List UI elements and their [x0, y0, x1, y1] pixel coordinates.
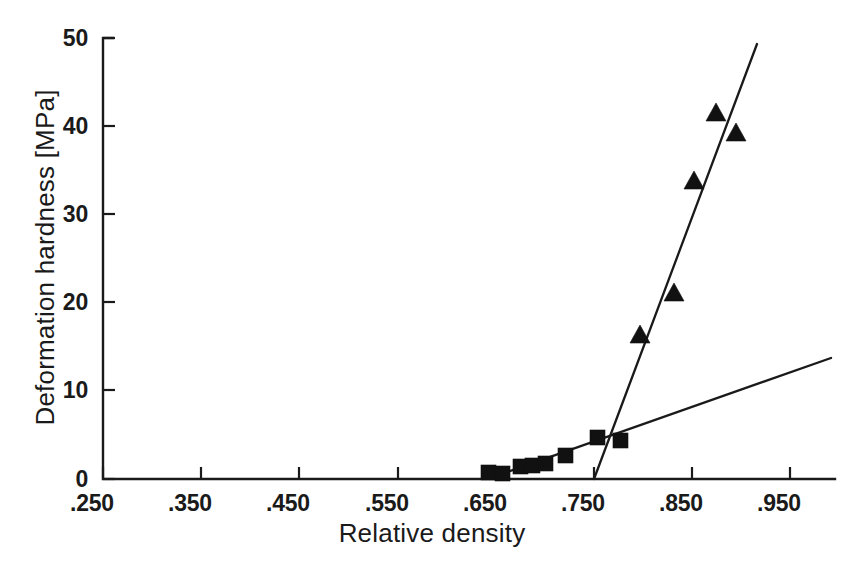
data-point-square: [613, 433, 628, 448]
x-tick-label-450: .450: [266, 490, 310, 517]
x-tick-label-350: .350: [168, 490, 212, 517]
x-axis-title: Relative density: [282, 518, 582, 549]
data-point-triangle: [726, 123, 746, 141]
x-tick-label-550: .550: [365, 490, 409, 517]
x-tick-label-950: .950: [757, 490, 801, 517]
axis-frame-path: [103, 38, 835, 479]
x-axis-ticks: [103, 467, 790, 479]
y-axis-title: Deformation hardness [MPa]: [30, 28, 61, 488]
triangle-marker-group: [630, 103, 746, 343]
y-axis-ticks: [103, 38, 115, 479]
data-point-square: [481, 465, 496, 480]
data-point-square: [558, 448, 573, 463]
y-axis-title-wrapper: Deformation hardness [MPa]: [0, 0, 60, 520]
data-point-triangle: [706, 103, 726, 121]
fit-lines: [493, 44, 831, 479]
plot-canvas: [0, 0, 865, 575]
x-tick-label-250: .250: [70, 490, 114, 517]
axis-spines: [103, 38, 835, 479]
figure-container: 50 40 30 20 10 0 .250 .350 .450 .550 .65…: [0, 0, 865, 575]
data-point-square: [590, 430, 605, 445]
data-point-triangle: [630, 325, 650, 343]
data-point-square: [538, 456, 553, 471]
x-tick-label-750: .750: [561, 490, 605, 517]
data-point-square: [495, 466, 510, 481]
data-point-triangle: [684, 171, 704, 189]
x-tick-label-650: .650: [463, 490, 507, 517]
x-tick-label-850: .850: [659, 490, 703, 517]
